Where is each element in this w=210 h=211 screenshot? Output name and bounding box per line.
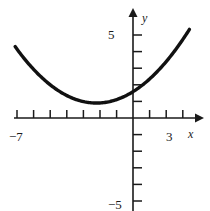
x-axis-arrow-icon: [195, 114, 204, 123]
y-axis-min-label: −5: [108, 198, 122, 211]
x-axis-min-label: −7: [9, 130, 23, 143]
x-axis-ticks: [17, 110, 183, 118]
y-axis-arrow-icon: [129, 8, 138, 17]
coordinate-plane-svg: [0, 0, 210, 211]
parabola-curve: [15, 29, 189, 103]
y-axis-max-label: 5: [108, 28, 115, 41]
x-axis-name-label: x: [188, 128, 193, 140]
parabola-graph-figure: −7 3 5 −5 x y: [0, 0, 210, 211]
y-axis-group: [129, 8, 138, 211]
x-axis-group: [14, 114, 204, 123]
y-axis-name-label: y: [142, 12, 147, 24]
x-axis-max-label: 3: [166, 130, 173, 143]
